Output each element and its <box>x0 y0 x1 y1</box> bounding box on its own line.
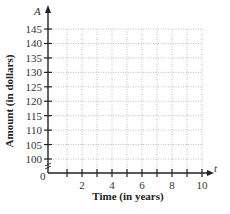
grid-lines <box>48 29 202 173</box>
y-tick-label: 125 <box>26 81 43 93</box>
x-tick-label: 10 <box>197 179 209 191</box>
axes <box>45 5 214 176</box>
chart-area: 100105110115120125130135140145 246810 A … <box>0 0 230 214</box>
y-tick-label: 120 <box>26 95 43 107</box>
y-tick-label: 145 <box>26 23 43 35</box>
y-tick-label: 140 <box>26 37 43 49</box>
y-tick-label: 110 <box>26 124 43 136</box>
y-tick-label: 130 <box>26 66 43 78</box>
x-tick-label: 2 <box>79 179 85 191</box>
x-tick-label: 8 <box>169 179 175 191</box>
x-axis-arrow-icon <box>207 170 214 176</box>
y-tick-label: 115 <box>26 110 43 122</box>
y-axis-variable: A <box>33 5 41 17</box>
origin-label: 0 <box>40 170 46 182</box>
y-tick-label: 100 <box>26 153 43 165</box>
y-axis-arrow-icon <box>45 5 51 13</box>
x-axis-variable: t <box>214 162 218 174</box>
y-tick-label: 135 <box>26 52 43 64</box>
y-axis-title: Amount (in dollars) <box>3 54 16 147</box>
x-axis-title: Time (in years) <box>92 190 164 203</box>
y-tick-label: 105 <box>26 139 43 151</box>
